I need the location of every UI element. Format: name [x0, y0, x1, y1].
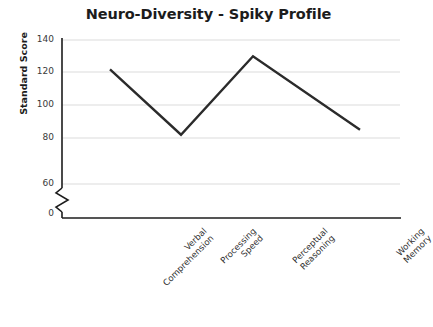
axis-break-icon — [56, 188, 68, 212]
gridlines — [62, 40, 400, 184]
data-series-line — [110, 56, 360, 134]
